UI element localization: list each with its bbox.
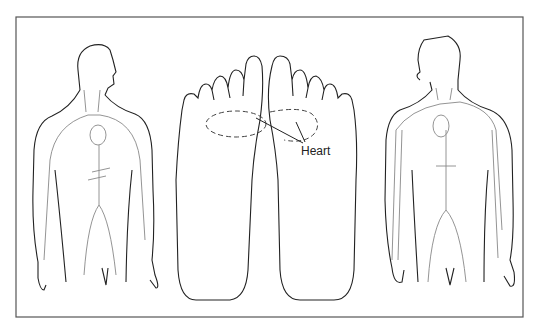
right-foot-sole	[268, 56, 356, 300]
left-circulatory-vessels	[44, 90, 145, 275]
heart-label: Heart	[301, 144, 330, 158]
heart-pointer-lines	[256, 118, 305, 143]
left-foot-sole	[176, 56, 263, 300]
right-circulatory-vessels	[392, 88, 502, 282]
right-body-figure	[385, 36, 515, 286]
right-heart-icon	[433, 115, 449, 137]
left-body-figure	[33, 45, 158, 290]
heart-reflex-zone	[206, 109, 318, 141]
diagram-canvas	[0, 0, 539, 333]
left-heart-icon	[90, 125, 106, 145]
diagram-stage: Heart	[0, 0, 539, 333]
